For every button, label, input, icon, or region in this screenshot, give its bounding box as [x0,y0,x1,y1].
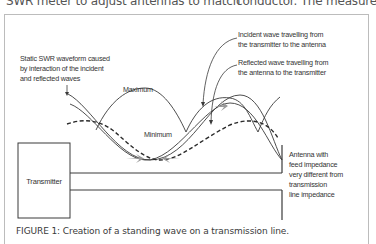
reflected-direction-arrow [162,154,180,163]
static-swr-label-line: by interaction of the incident [20,64,110,74]
antenna-label: Antenna with feed impedance very differe… [289,150,343,200]
reflected-leader [211,65,237,122]
antenna-label-line: feed impedance [289,160,343,170]
static-swr-label-line: Static SWR waveform caused [20,54,110,64]
incident-direction-arrow [126,154,144,163]
reflected-wave [70,103,282,160]
figure-caption: FIGURE 1: Creation of a standing wave on… [16,226,289,236]
incident-wave-label: Incident wave travelling from the transm… [238,30,326,50]
incident-leader-arrowhead [201,102,205,107]
antenna-label-line: Antenna with [289,150,343,160]
reflected-leader-arrowhead [209,120,213,125]
minimum-label: Minimum [144,130,172,140]
incident-label-line: Incident wave travelling from [238,30,326,40]
incident-leader [203,38,237,104]
antenna-label-line: transmission [289,180,343,190]
static-swr-label-line: and reflected waves [20,74,110,84]
reflected-label-line: Reflected wave travelling from [238,58,328,68]
incident-wave [68,94,282,160]
antenna-label-line: line impedance [289,190,343,200]
reflected-label-line: the antenna to the transmitter [238,68,328,78]
incident-direction-arrow-upper [214,101,228,111]
antenna-label-line: very different from [289,170,343,180]
static-swr-label: Static SWR waveform caused by interactio… [20,54,110,84]
transmitter-label: Transmitter [18,177,70,187]
maximum-label: Maximum [123,85,153,95]
incident-label-line: the transmitter to the antenna [238,40,326,50]
reflected-wave-label: Reflected wave travelling from the anten… [238,58,328,78]
